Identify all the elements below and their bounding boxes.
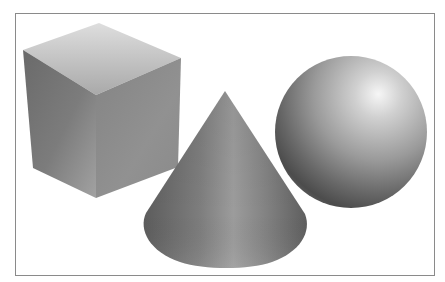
sphere-shape xyxy=(275,56,427,208)
shapes-scene xyxy=(0,0,445,282)
cube-shape xyxy=(23,23,181,198)
sphere-body xyxy=(275,56,427,208)
